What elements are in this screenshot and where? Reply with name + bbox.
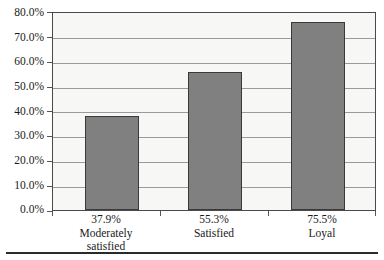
x-category-label-line1: Moderately [52,227,160,241]
bar-satisfied [188,72,242,210]
x-category-loyal: 75.5% Loyal [268,213,376,240]
y-tick-label: 10.0% [0,180,44,192]
bar-chart-figure: 80.0% 70.0% 60.0% 50.0% 40.0% 30.0% 20.0… [0,0,384,260]
x-axis: 37.9% Moderately satisfied 55.3% Satisfi… [52,213,376,255]
x-category-value: 55.3% [160,213,268,227]
x-category-label-line1: Loyal [268,227,376,241]
y-tick-label: 70.0% [0,32,44,44]
y-tick-label: 80.0% [0,7,44,19]
y-tick-label: 50.0% [0,81,44,93]
x-category-value: 75.5% [268,213,376,227]
bar-moderately-satisfied [85,116,139,210]
y-tick-label: 60.0% [0,56,44,68]
y-tick-label: 40.0% [0,106,44,118]
plot-area [52,12,376,211]
y-tick-label: 0.0% [0,204,44,216]
bottom-rule [6,252,378,254]
x-category-value: 37.9% [52,213,160,227]
y-tick-label: 20.0% [0,155,44,167]
y-axis: 80.0% 70.0% 60.0% 50.0% 40.0% 30.0% 20.0… [0,0,44,260]
x-category-satisfied: 55.3% Satisfied [160,213,268,240]
y-tick-label: 30.0% [0,130,44,142]
x-category-moderately-satisfied: 37.9% Moderately satisfied [52,213,160,254]
x-category-label-line1: Satisfied [160,227,268,241]
bar-loyal [291,22,345,210]
